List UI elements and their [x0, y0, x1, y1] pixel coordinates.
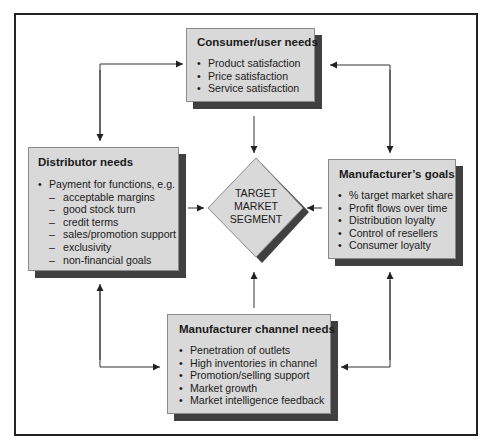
consumer-needs-title: Consumer/user needs [197, 36, 318, 48]
list-item: Payment for functions, e.g. [38, 178, 176, 191]
distributor-needs-title: Distributor needs [38, 156, 133, 168]
channel-needs-title: Manufacturer channel needs [179, 323, 335, 335]
arrow-to-consumer-from-left [100, 64, 183, 140]
list-item: Consumer loyalty [338, 239, 453, 252]
distributor-needs-list: Payment for functions, e.g. –acceptable … [38, 178, 176, 266]
target-market-label: TARGET MARKET SEGMENT [210, 187, 302, 225]
list-subitem: –sales/promotion support [38, 228, 176, 241]
list-subitem: –exclusivity [38, 241, 176, 254]
consumer-needs-list: Product satisfaction Price satisfaction … [197, 57, 300, 95]
manufacturer-goals-title: Manufacturer’s goals [339, 168, 455, 180]
list-item: Market intelligence feedback [179, 394, 324, 407]
list-item: Promotion/selling support [179, 369, 324, 382]
list-item: Price satisfaction [197, 70, 300, 83]
arrow-to-channel-from-right [341, 280, 390, 367]
list-item: % target market share [338, 189, 453, 202]
distributor-needs-box: Distributor needs Payment for functions,… [28, 147, 179, 271]
list-item: Distribution loyalty [338, 214, 453, 227]
channel-needs-box: Manufacturer channel needs Penetration o… [167, 314, 331, 414]
arrow-to-consumer-from-right [330, 65, 390, 152]
list-item: Market growth [179, 382, 324, 395]
list-item: Profit flows over time [338, 202, 453, 215]
manufacturer-goals-box: Manufacturer’s goals % target market sha… [328, 159, 456, 259]
list-subitem: –acceptable margins [38, 191, 176, 204]
manufacturer-goals-list: % target market share Profit flows over … [338, 189, 453, 252]
list-subitem: –non-financial goals [38, 254, 176, 267]
list-subitem: –good stock turn [38, 203, 176, 216]
consumer-needs-box: Consumer/user needs Product satisfaction… [186, 28, 315, 102]
list-item: Product satisfaction [197, 57, 300, 70]
list-item: Penetration of outlets [179, 344, 324, 357]
list-item: High inventories in channel [179, 357, 324, 370]
list-subitem: –credit terms [38, 216, 176, 229]
arrow-to-channel-from-left [100, 290, 160, 367]
list-item: Service satisfaction [197, 82, 300, 95]
list-item: Control of resellers [338, 227, 453, 240]
channel-needs-list: Penetration of outlets High inventories … [179, 344, 324, 407]
